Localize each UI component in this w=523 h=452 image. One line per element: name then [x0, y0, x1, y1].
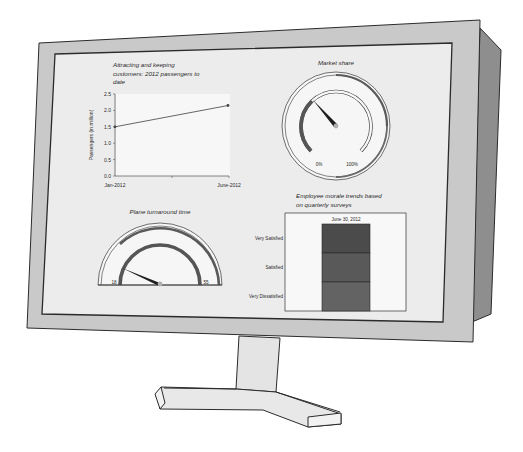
data-point	[227, 104, 230, 107]
y-tick: 2.0	[104, 107, 111, 113]
y-tick: 0.0	[104, 173, 111, 179]
turnaround-max-label: 55	[203, 280, 209, 285]
market-share-title: Market share	[318, 59, 355, 66]
morale-cell-satisfied	[322, 253, 370, 282]
line-plot-area	[116, 94, 230, 176]
data-point	[114, 125, 117, 128]
morale-row-label: Very Dissatisfied	[249, 294, 283, 299]
y-tick: 2.5	[104, 91, 111, 97]
y-axis-label: Passengers (in million)	[88, 109, 94, 160]
y-tick: 1.5	[104, 124, 111, 130]
market-share-max-label: 100%	[346, 162, 358, 167]
monitor-illustration: Attracting and keeping customers: 2012 p…	[0, 0, 523, 452]
morale-title-2: on quarterly surveys	[296, 201, 352, 208]
monitor-stand	[155, 336, 341, 427]
morale-column-label: June 30, 2012	[331, 217, 361, 222]
morale-title-1: Employee morale trends based	[296, 192, 382, 199]
morale-row-label: Satisfied	[265, 265, 283, 270]
turnaround-min-label: 18	[111, 280, 117, 285]
turnaround-title: Plane turnaround time	[130, 208, 191, 215]
line-chart-title-1: Attracting and keeping	[112, 61, 175, 68]
market-share-min-label: 0%	[316, 162, 323, 167]
morale-row-label: Very Satisfied	[255, 236, 284, 241]
y-tick: 1.0	[104, 140, 111, 146]
x-tick: Jan-2012	[105, 182, 126, 188]
x-tick: June-2012	[217, 182, 241, 188]
morale-cell-very-dissatisfied	[322, 282, 370, 311]
y-tick: 0.5	[104, 157, 111, 163]
line-chart-title-2: customers: 2012 passengers to	[113, 70, 200, 77]
morale-cell-very-satisfied	[322, 224, 370, 253]
line-chart-title-3: date	[113, 78, 126, 85]
